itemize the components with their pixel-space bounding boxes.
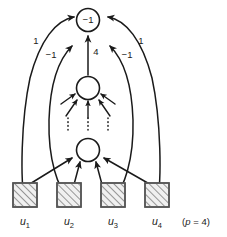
unit-label-u4: u4 xyxy=(152,215,162,230)
input-boxes-group xyxy=(13,183,169,207)
fan-arrow-left xyxy=(66,100,77,116)
figure-caption: (p = 4) xyxy=(182,216,210,227)
weight-label-center: 4 xyxy=(93,46,98,57)
weight-label-right-inner: −1 xyxy=(122,49,133,60)
edge-left-inner-path xyxy=(49,46,72,200)
input-box-u3[interactable] xyxy=(101,183,125,207)
input-box-u2[interactable] xyxy=(57,183,81,207)
node-hidden-upper[interactable] xyxy=(77,77,100,100)
unit-label-u3-subscript: 3 xyxy=(114,221,118,230)
unit-label-u1: u1 xyxy=(20,215,30,230)
input-box-u4[interactable] xyxy=(145,183,169,207)
unit-label-u2-subscript: 2 xyxy=(70,221,74,230)
edge-group-inner xyxy=(49,46,133,200)
caption-relation: = xyxy=(191,216,202,227)
node-output-label: −1 xyxy=(83,14,94,25)
weight-label-left-outer: 1 xyxy=(33,35,38,46)
network-diagram-figure: −1 1 −1 4 −1 1 u1 u2 u3 u4 (p = 4) xyxy=(0,0,227,237)
fan-arrow-right xyxy=(99,100,110,116)
fan-arrow-far-left xyxy=(61,94,75,104)
node-output[interactable]: −1 xyxy=(77,9,100,32)
weight-label-right-outer: 1 xyxy=(138,35,143,46)
unit-label-u1-subscript: 1 xyxy=(26,221,30,230)
fan-arrow-far-right xyxy=(101,94,115,104)
unit-label-u3: u3 xyxy=(108,215,118,230)
edge-right-outer-path xyxy=(108,17,160,205)
node-hidden-lower[interactable] xyxy=(77,139,100,162)
unit-labels-group: u1 u2 u3 u4 xyxy=(20,215,162,230)
edge-right-inner-path xyxy=(110,46,133,200)
unit-label-u2: u2 xyxy=(64,215,74,230)
edge-left-outer-path xyxy=(22,17,74,205)
diagram-canvas: −1 1 −1 4 −1 1 u1 u2 u3 u4 (p = 4) xyxy=(0,0,227,237)
input-box-u1[interactable] xyxy=(13,183,37,207)
caption-close-paren: ) xyxy=(207,216,210,227)
unit-label-u4-subscript: 4 xyxy=(158,221,162,230)
weight-label-left-inner: −1 xyxy=(46,49,57,60)
edge-group-lower-inputs xyxy=(20,158,160,192)
